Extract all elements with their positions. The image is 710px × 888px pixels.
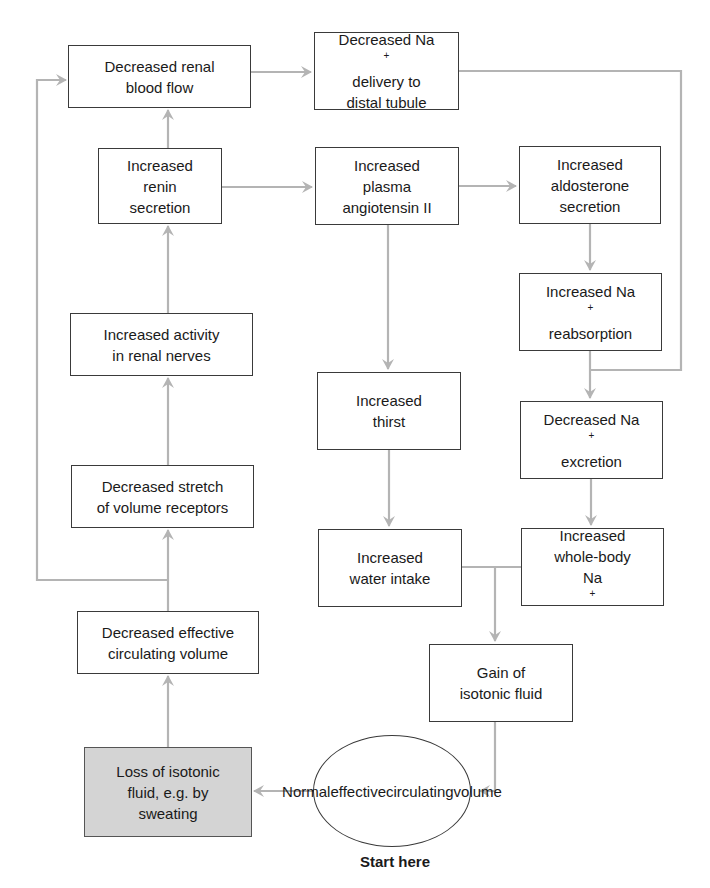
- node-decreased-renal-blood-flow: Decreased renalblood flow: [68, 45, 251, 108]
- node-text: renin: [127, 176, 193, 197]
- node-text: Increased: [127, 155, 193, 176]
- node-text: Increased: [350, 547, 431, 568]
- node-text: angiotensin II: [342, 197, 431, 218]
- superscript: +: [590, 588, 596, 599]
- node-decreased-na-delivery: Decreased Na+delivery todistal tubule: [314, 32, 459, 110]
- node-increased-renal-nerve-activity: Increased activityin renal nerves: [70, 313, 253, 376]
- node-loss-isotonic-fluid: Loss of isotonicfluid, e.g. bysweating: [84, 747, 252, 837]
- node-text: Increased: [356, 390, 422, 411]
- node-text: volume: [454, 783, 502, 800]
- node-text: Increased Na: [546, 281, 635, 302]
- node-text: secretion: [127, 197, 193, 218]
- node-text: plasma: [342, 176, 431, 197]
- start-here-label: Start here: [330, 853, 460, 870]
- node-text: fluid, e.g. by: [116, 782, 219, 803]
- node-increased-whole-body-na: Increasedwhole-bodyNa+: [521, 528, 664, 606]
- node-decreased-effective-circulating-volume: Decreased effectivecirculating volume: [77, 611, 259, 674]
- node-increased-na-reabsorption: Increased Na+reabsorption: [519, 273, 662, 351]
- node-text: isotonic fluid: [460, 683, 543, 704]
- node-increased-renin-secretion: Increasedreninsecretion: [98, 148, 222, 224]
- node-text: excretion: [544, 451, 640, 472]
- node-text: circulating volume: [102, 643, 234, 664]
- node-text: effective: [330, 783, 386, 800]
- node-increased-aldosterone: Increasedaldosteronesecretion: [519, 146, 661, 224]
- superscript: +: [588, 302, 594, 313]
- node-text: sweating: [116, 803, 219, 824]
- node-text: distal tubule: [339, 92, 435, 113]
- node-text: delivery to: [339, 71, 435, 92]
- node-text: Decreased Na: [544, 409, 640, 430]
- node-text: Na: [554, 567, 631, 588]
- node-text: Decreased Na: [339, 29, 435, 50]
- node-text: Increased activity: [104, 324, 220, 345]
- node-text: in renal nerves: [104, 345, 220, 366]
- superscript: +: [384, 50, 390, 61]
- node-text: Increased: [551, 154, 629, 175]
- node-increased-angiotensin: Increasedplasmaangiotensin II: [315, 147, 459, 225]
- node-decreased-volume-receptor-stretch: Decreased stretchof volume receptors: [71, 465, 254, 528]
- node-normal-effective-circulating-volume: Normaleffectivecirculatingvolume: [313, 735, 471, 847]
- node-text: whole-body: [554, 546, 631, 567]
- node-text: Increased: [554, 525, 631, 546]
- node-text: circulating: [386, 783, 454, 800]
- node-text: Normal: [282, 783, 330, 800]
- node-text: aldosterone: [551, 175, 629, 196]
- node-text: Decreased stretch: [97, 476, 229, 497]
- node-text-line3: Na+: [554, 567, 631, 609]
- node-increased-water-intake: Increasedwater intake: [318, 529, 462, 607]
- node-text: water intake: [350, 568, 431, 589]
- node-text: reabsorption: [546, 323, 635, 344]
- node-text: Gain of: [460, 662, 543, 683]
- node-text: Increased: [342, 155, 431, 176]
- node-text-line1: Increased Na+: [546, 281, 635, 323]
- node-text-line1: Decreased Na+: [339, 29, 435, 71]
- node-text-line1: Decreased Na+: [544, 409, 640, 451]
- node-increased-thirst: Increasedthirst: [317, 372, 461, 450]
- node-text: Decreased renal: [104, 56, 214, 77]
- node-text: secretion: [551, 196, 629, 217]
- node-text: thirst: [356, 411, 422, 432]
- node-decreased-na-excretion: Decreased Na+excretion: [520, 401, 663, 479]
- node-text: Decreased effective: [102, 622, 234, 643]
- node-text: of volume receptors: [97, 497, 229, 518]
- node-gain-isotonic-fluid: Gain ofisotonic fluid: [429, 644, 573, 722]
- node-text: blood flow: [104, 77, 214, 98]
- superscript: +: [589, 430, 595, 441]
- node-text: Loss of isotonic: [116, 761, 219, 782]
